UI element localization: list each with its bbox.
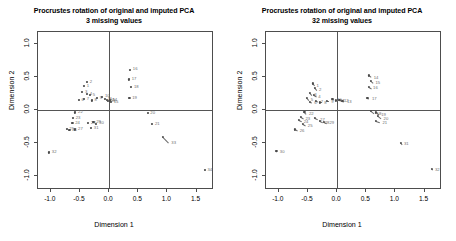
panel-right: Procrustes rotation of original and impu…: [228, 0, 456, 241]
x-tick: [278, 189, 279, 192]
x-tick-label: 1.0: [390, 195, 399, 202]
data-point-label: 32: [435, 166, 440, 171]
plot-area-right: 1234567891011121314151617181920212223242…: [265, 31, 441, 189]
y-tick-label: -1.0: [251, 169, 258, 180]
y-axis-title-left: Dimension 2: [8, 71, 16, 110]
data-point: [48, 151, 50, 153]
data-point-label: 21: [155, 120, 160, 125]
data-point-label: 31: [404, 141, 409, 146]
data-point-label: 2: [90, 78, 92, 83]
y-tick: [262, 43, 265, 44]
data-point: [83, 98, 85, 100]
data-point: [146, 112, 148, 114]
data-point-label: 32: [52, 149, 57, 154]
y-tick-label: -0.5: [23, 136, 30, 147]
residual-segment: [163, 137, 169, 143]
data-point: [87, 122, 89, 124]
data-point: [83, 85, 85, 87]
y-tick-label: 1.0: [251, 38, 258, 47]
x-tick-label: -1.0: [44, 195, 55, 202]
panel-right-title-line2: 32 missing values: [228, 17, 456, 27]
data-point-label: 31: [94, 124, 99, 129]
x-tick-label: 1.0: [162, 195, 171, 202]
y-tick: [34, 76, 37, 77]
data-point-label: 14: [374, 74, 379, 79]
panel-left: Procrustes rotation of original and impu…: [0, 0, 228, 241]
y-tick-label: -1.0: [23, 169, 30, 180]
data-point: [204, 169, 206, 171]
y-tick-label: 1.0: [23, 38, 30, 47]
data-point: [65, 128, 67, 130]
y-tick-label: 0.5: [23, 71, 30, 80]
y-tick: [262, 76, 265, 77]
data-point-label: 29: [329, 120, 334, 125]
data-point-label: 16: [133, 66, 138, 71]
x-tick-label: 0.0: [332, 195, 341, 202]
y-tick: [34, 43, 37, 44]
x-tick: [196, 189, 197, 192]
x-tick: [424, 189, 425, 192]
data-point-label: 21: [382, 119, 387, 124]
data-point: [90, 127, 92, 129]
y-tick-label: 0.0: [23, 104, 30, 113]
y-tick-label: 0.0: [251, 104, 258, 113]
data-point: [275, 150, 277, 152]
x-tick-label: 1.5: [191, 195, 200, 202]
data-point-label: 7: [87, 95, 89, 100]
data-point-label: 4: [318, 93, 320, 98]
y-tick-label: -0.5: [251, 136, 258, 147]
procrustes-figure: Procrustes rotation of original and impu…: [0, 0, 456, 241]
x-tick: [108, 189, 109, 192]
x-tick: [307, 189, 308, 192]
data-point-label: 30: [280, 149, 285, 154]
data-point-label: 19: [132, 94, 137, 99]
zero-line-horizontal: [266, 110, 440, 111]
y-tick: [34, 175, 37, 176]
x-axis-title-right: Dimension 1: [228, 221, 456, 229]
panel-left-title-line2: 3 missing values: [0, 17, 228, 27]
y-tick: [34, 142, 37, 143]
data-point: [72, 117, 74, 119]
data-point-label: 2: [319, 87, 321, 92]
data-point: [129, 68, 131, 70]
data-point-label: 27: [78, 126, 83, 131]
data-point-label: 24: [75, 119, 80, 124]
data-point-label: 25: [308, 122, 313, 127]
x-tick: [137, 189, 138, 192]
y-tick: [34, 109, 37, 110]
data-point: [128, 78, 130, 80]
x-tick-label: 0.5: [133, 195, 142, 202]
data-point-label: 13: [347, 99, 352, 104]
data-point-label: 15: [114, 98, 119, 103]
data-point: [128, 97, 130, 99]
x-tick-label: -0.5: [73, 195, 84, 202]
x-tick-label: -0.5: [301, 195, 312, 202]
data-point-label: 5: [311, 97, 313, 102]
data-point: [74, 111, 76, 113]
data-point-label: 30: [99, 120, 104, 125]
data-point-label: 22: [78, 109, 83, 114]
data-point-label: 15: [375, 80, 380, 85]
x-tick: [394, 189, 395, 192]
data-point-label: 17: [372, 95, 377, 100]
data-point: [101, 95, 103, 97]
x-tick-label: 0.5: [361, 195, 370, 202]
zero-line-vertical: [337, 32, 338, 188]
data-point: [91, 99, 93, 101]
data-point: [110, 101, 112, 103]
y-tick: [262, 175, 265, 176]
panel-right-title-line1: Procrustes rotation of original and impu…: [228, 7, 456, 17]
data-point-label: 17: [132, 76, 137, 81]
plot-area-left: 1234567891011121314151617181920212223242…: [37, 31, 213, 189]
zero-line-horizontal: [38, 110, 212, 111]
data-point: [130, 86, 132, 88]
x-tick-label: 1.5: [419, 195, 428, 202]
data-point-label: 16: [373, 85, 378, 90]
x-tick: [365, 189, 366, 192]
data-point-label: 26: [300, 128, 305, 133]
panel-left-title-line1: Procrustes rotation of original and impu…: [0, 7, 228, 17]
data-point: [326, 100, 328, 102]
y-tick-label: 0.5: [251, 71, 258, 80]
data-point: [81, 91, 83, 93]
x-tick: [166, 189, 167, 192]
